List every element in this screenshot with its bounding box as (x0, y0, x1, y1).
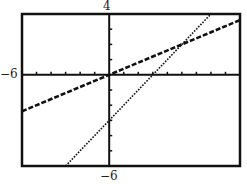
line-steep (66, 14, 211, 166)
graph-plot (0, 0, 247, 184)
axes (22, 14, 240, 166)
plot-lines (22, 14, 240, 166)
window-frame (22, 14, 240, 166)
